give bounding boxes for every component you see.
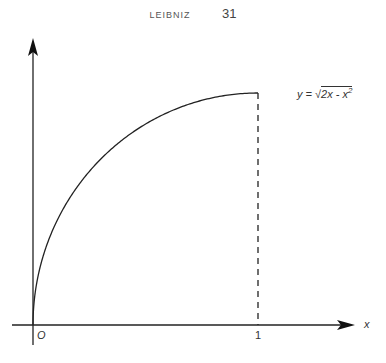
origin-label: O	[37, 329, 46, 341]
equation-exponent: 2	[348, 86, 352, 95]
plot	[0, 0, 386, 363]
equation-radicand: 2x - x	[321, 88, 348, 100]
tick-one-label: 1	[255, 329, 261, 341]
equation-lhs: y =	[297, 88, 312, 100]
x-axis-label: x	[364, 318, 370, 330]
equation-label: y = √2x - x2	[297, 86, 352, 100]
curve	[33, 93, 258, 325]
